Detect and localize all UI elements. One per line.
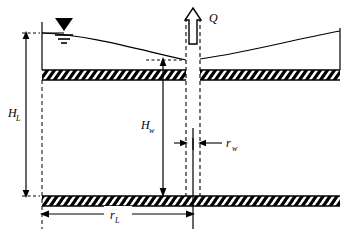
water-table-triangle-icon — [55, 18, 73, 43]
hw-label-subscript: w — [149, 126, 155, 135]
top-confining-layer-right — [200, 70, 340, 80]
rw-label-subscript: w — [232, 144, 238, 153]
rw-label: r w — [226, 136, 238, 153]
diagram-canvas: Q H L H w — [0, 0, 363, 234]
hl-label: H L — [7, 106, 21, 123]
top-confining-layer-left — [42, 70, 186, 80]
drawdown-curve-left — [42, 33, 186, 60]
hl-label-subscript: L — [15, 114, 21, 123]
discharge-arrow-icon — [185, 8, 201, 44]
aquifer-diagram: Q H L H w — [0, 0, 363, 234]
hw-label: H w — [140, 118, 155, 135]
rw-dimension — [174, 140, 222, 146]
rl-label-subscript: L — [114, 216, 120, 225]
discharge-label: Q — [209, 11, 218, 25]
rl-label: r L — [104, 206, 132, 225]
drawdown-curve-right — [200, 31, 340, 59]
rw-label-symbol: r — [226, 136, 231, 150]
bottom-confining-layer — [42, 196, 340, 206]
hl-dimension — [22, 31, 40, 198]
